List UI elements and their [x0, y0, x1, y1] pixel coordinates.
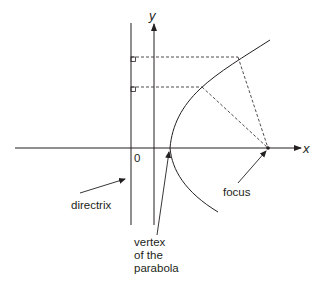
parabola-curve [170, 40, 270, 212]
vertex-label-line2: of the [134, 249, 163, 261]
parabola-diagram: x y 0 focus directrix vertex of the para… [0, 0, 323, 285]
focus-arrow [238, 151, 266, 183]
focal-dashed-1 [238, 57, 268, 148]
directrix-arrow [80, 179, 125, 193]
directrix-label: directrix [71, 199, 112, 211]
origin-label: 0 [134, 152, 140, 164]
x-axis-label: x [302, 141, 310, 156]
right-angle-marker-2 [131, 87, 136, 92]
focus-point [266, 146, 270, 150]
right-angle-marker-1 [131, 57, 136, 62]
vertex-arrow [157, 152, 169, 235]
focus-label: focus [223, 186, 251, 198]
vertex-label-line1: vertex [134, 236, 166, 248]
focal-dashed-2 [202, 87, 268, 148]
y-axis-label: y [148, 8, 157, 23]
vertex-label-line3: parabola [134, 262, 179, 274]
